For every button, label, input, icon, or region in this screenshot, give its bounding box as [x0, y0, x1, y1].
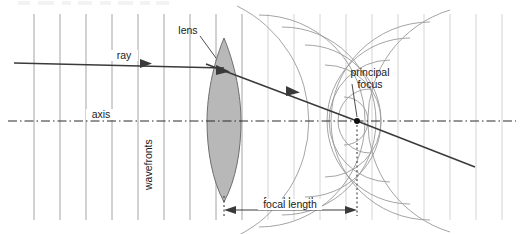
principal-focus-label-line1: principal [350, 66, 389, 78]
focal-length-right-arrowhead [345, 206, 357, 214]
principal-focus-label-line2: focus [357, 78, 382, 90]
lens-leader-line [200, 36, 216, 58]
incident-ray-line [14, 63, 224, 68]
focal-length-left-arrowhead [224, 206, 236, 214]
lens-wavefront-diagram: ray lens axis wavefronts principal focus… [0, 0, 520, 234]
diagram-canvas: ray lens axis wavefronts principal focus… [0, 0, 520, 234]
principal-focus-dot [354, 118, 360, 124]
axis-label-front: axis [92, 108, 111, 120]
ray-label-front: ray [117, 49, 132, 61]
clipped-top-text [18, 1, 169, 5]
lens-shape [207, 38, 241, 202]
right-guide-lines-group [268, 14, 502, 220]
focal-length-label-front: focal length [263, 198, 317, 210]
converging-ray-arrowhead [286, 86, 300, 96]
wavefronts-label: wavefronts [142, 139, 154, 191]
lens-label: lens [178, 24, 197, 36]
